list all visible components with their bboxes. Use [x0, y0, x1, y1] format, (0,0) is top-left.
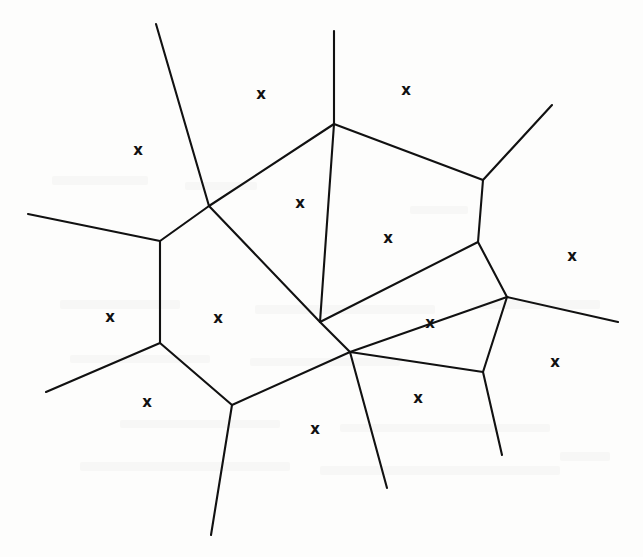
site-marker-s7: x	[105, 308, 115, 326]
voronoi-ray-v8	[46, 343, 160, 392]
voronoi-ray-v6	[507, 297, 618, 322]
voronoi-edge-v5-v6	[478, 242, 507, 297]
site-marker-s2: x	[401, 81, 411, 99]
voronoi-edge-v6-v10	[483, 297, 507, 372]
voronoi-edge-v1-v4	[160, 206, 209, 241]
voronoi-edge-v2-v3	[334, 124, 483, 180]
site-marker-s13: x	[310, 420, 320, 438]
voronoi-edge-v1-v7	[209, 206, 320, 322]
voronoi-ray-v11	[211, 405, 232, 535]
voronoi-edge-v1-v2	[209, 124, 334, 206]
voronoi-edge-v7-v9	[320, 322, 350, 352]
voronoi-ray-v3	[483, 105, 552, 180]
voronoi-ray-v9	[350, 352, 387, 488]
site-marker-s4: x	[295, 194, 305, 212]
voronoi-edge-v3-v5	[478, 180, 483, 242]
site-marker-s3: x	[133, 141, 143, 159]
site-marker-s9: x	[425, 314, 435, 332]
figure-page: xxxxxxxxxxxxx	[0, 0, 643, 557]
voronoi-edge-v8-v11	[160, 343, 232, 405]
site-marker-s5: x	[383, 229, 393, 247]
site-marker-s8: x	[213, 309, 223, 327]
site-marker-s11: x	[142, 393, 152, 411]
site-marker-s10: x	[550, 353, 560, 371]
voronoi-edge-layer	[160, 124, 507, 405]
voronoi-ray-v1	[156, 24, 209, 206]
voronoi-ray-v10	[483, 372, 502, 455]
voronoi-edge-v9-v11	[232, 352, 350, 405]
voronoi-edge-v5-v7	[320, 242, 478, 322]
site-marker-s6: x	[567, 247, 577, 265]
voronoi-edge-v2-v7	[320, 124, 334, 322]
site-marker-s1: x	[256, 85, 266, 103]
site-marker-s12: x	[413, 389, 423, 407]
voronoi-edge-v9-v10	[350, 352, 483, 372]
voronoi-ray-v4	[28, 214, 160, 241]
voronoi-site-layer: xxxxxxxxxxxxx	[105, 81, 577, 438]
voronoi-diagram: xxxxxxxxxxxxx	[0, 0, 643, 557]
